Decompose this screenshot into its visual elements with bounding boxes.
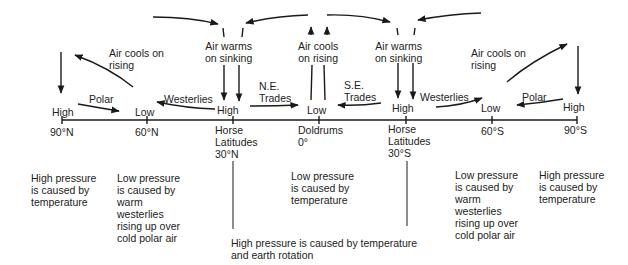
explanation-high-horse-latitudes: High pressure is caused by temperature a… xyxy=(231,237,417,261)
explanation-high-90n: High pressure is caused by temperature xyxy=(31,172,96,208)
explanation-low-equator: Low pressure is caused by temperature xyxy=(291,170,354,206)
explanation-low-60n: Low pressure is caused by warm westerlie… xyxy=(117,172,180,244)
explanation-high-90s: High pressure is caused by temperature xyxy=(539,169,604,205)
horse-latitudes-leaders xyxy=(0,0,628,265)
explanation-low-60s: Low pressure is caused by warm westerlie… xyxy=(455,169,518,241)
